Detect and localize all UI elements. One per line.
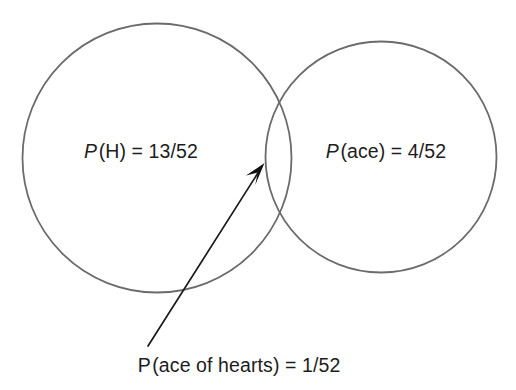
intersection-caption: P(ace of hearts) = 1/52: [138, 356, 341, 376]
right-set-expression: (ace) = 4/52: [340, 140, 446, 162]
right-set-symbol: P: [326, 140, 341, 162]
venn-diagram-figure: P(H) = 13/52 P(ace) = 4/52 P(ace of hear…: [0, 0, 516, 390]
intersection-pointer-arrow: [148, 163, 265, 346]
left-set-label: P(H) = 13/52: [84, 142, 198, 162]
left-set-expression: (H) = 13/52: [99, 140, 198, 162]
right-set-label: P(ace) = 4/52: [326, 142, 446, 162]
venn-diagram-canvas: [0, 0, 516, 390]
left-set-symbol: P: [84, 140, 99, 162]
intersection-symbol: P: [138, 354, 153, 376]
arrowhead-icon: [246, 163, 265, 185]
intersection-expression: (ace of hearts) = 1/52: [152, 354, 340, 376]
